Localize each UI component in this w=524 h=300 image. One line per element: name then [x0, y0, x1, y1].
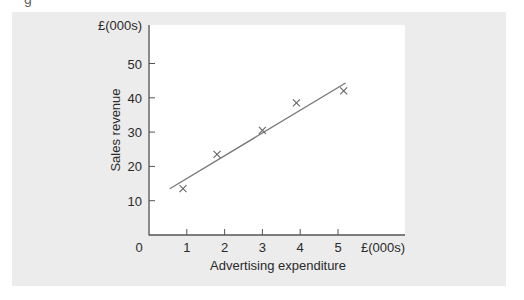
y-unit-label: £(000s)	[98, 18, 142, 33]
x-tick-label: 1	[183, 240, 190, 255]
x-tick-label: 5	[334, 240, 341, 255]
x-tick-label: 3	[259, 240, 266, 255]
y-tick-label: 10	[128, 194, 142, 209]
y-tick-label: 20	[128, 159, 142, 174]
y-axis-title: Sales revenue	[108, 88, 123, 171]
plot-area	[150, 25, 405, 235]
scatter-chart: 1234510203040500£(000s)£(000s)Advertisin…	[0, 0, 524, 300]
origin-label: 0	[135, 240, 142, 255]
x-unit-label: £(000s)	[361, 240, 405, 255]
y-tick-label: 50	[128, 57, 142, 72]
x-axis-title: Advertising expenditure	[210, 258, 346, 273]
y-tick-label: 40	[128, 91, 142, 106]
x-tick-label: 2	[221, 240, 228, 255]
y-tick-label: 30	[128, 125, 142, 140]
x-tick-label: 4	[297, 240, 304, 255]
